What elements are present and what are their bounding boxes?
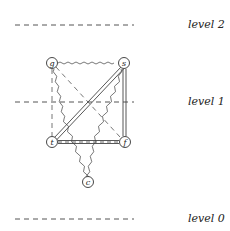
level-0-label: level 0 bbox=[188, 212, 225, 225]
level-diagram: g s t f c bbox=[0, 0, 230, 231]
svg-text:g: g bbox=[49, 59, 54, 68]
edge-g-s bbox=[58, 62, 114, 64]
level-2-label: level 2 bbox=[188, 18, 225, 31]
node-t: t bbox=[47, 137, 58, 148]
node-c: c bbox=[83, 177, 94, 188]
edge-g-c bbox=[53, 69, 88, 179]
edge-t-f bbox=[58, 141, 119, 144]
svg-text:s: s bbox=[122, 59, 126, 68]
level-1-label: level 1 bbox=[188, 95, 225, 108]
svg-text:c: c bbox=[86, 178, 91, 187]
node-f: f bbox=[120, 137, 131, 148]
node-s: s bbox=[119, 58, 130, 69]
node-g: g bbox=[47, 58, 58, 69]
